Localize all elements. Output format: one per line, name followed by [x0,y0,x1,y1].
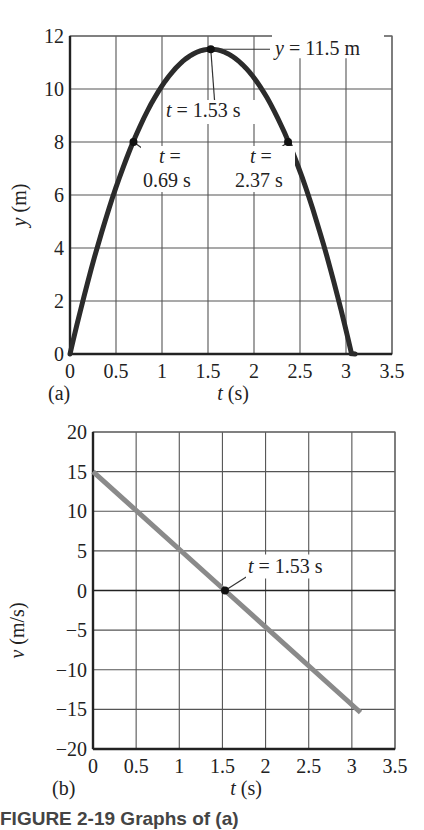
y-tick-label: 0 [54,343,64,365]
chart-b: 20151050−15−10−5−20 00.511.522.533.5 t =… [6,421,408,800]
zero-velocity-point [221,587,229,595]
y-tick-label: 0 [77,580,87,602]
chart-a: 024681012 00.511.522.533.5 y = 11.5 mt =… [8,25,405,405]
x-tick-label: 2 [249,360,259,382]
x-tick-label: 0.5 [104,360,129,382]
chart-b-y-axis-label: v (m/s) [6,602,29,658]
x-tick-label: 3 [347,755,357,777]
chart-a-panel-label: (a) [48,382,70,405]
x-tick-label: 3 [341,360,351,382]
x-tick-label: 0 [65,360,75,382]
y-tick-label: 8 [54,131,64,153]
figure-caption: FIGURE 2-19 Graphs of (a) [0,808,424,830]
x-tick-label: 1 [157,360,167,382]
x-tick-label: 0 [88,755,98,777]
chart-b-annotations: t = 1.53 s [221,555,340,595]
y-tick-label: 4 [54,237,64,259]
y-tick-label: 10 [44,78,64,100]
chart-a-y-axis-label: y (m) [8,184,31,229]
y-tick-label: 10 [67,500,87,522]
falling-point [284,138,292,146]
y-tick-label: 5 [77,540,87,562]
peak-height-label: y = 11.5 m [273,37,360,60]
x-tick-label: 1.5 [196,360,221,382]
falling-time-label-line1: t = [250,145,272,167]
x-tick-label: 3.5 [383,755,408,777]
chart-b-panel-label: (b) [52,777,75,800]
rising-time-label-line1: t = [159,145,181,167]
y-tick-label: −10 [56,659,87,681]
x-tick-label: 0.5 [124,755,149,777]
zero-velocity-time-label: t = 1.53 s [248,555,323,577]
x-tick-label: 1 [174,755,184,777]
y-tick-label: −20 [56,738,87,760]
y-tick-label: 20 [67,421,87,443]
peak-time-label: t = 1.53 s [166,99,241,121]
y-tick-label: 6 [54,184,64,206]
y-tick-label: 12 [44,25,64,47]
chart-b-y-tick-labels: 20151050−15−10−5−20 [56,421,87,760]
y-tick-label: 2 [54,290,64,312]
y-tick-label: −15 [56,698,87,720]
rising-point [129,138,137,146]
chart-a-y-tick-labels: 024681012 [44,25,64,365]
peak-point [207,45,215,53]
chart-a-x-axis-label: t (s) [217,382,249,405]
y-tick-label: 15 [67,461,87,483]
chart-b-x-axis-label: t (s) [230,777,262,800]
x-tick-label: 2.5 [288,360,313,382]
x-tick-label: 2.5 [296,755,321,777]
chart-a-x-tick-labels: 00.511.522.533.5 [65,360,405,382]
falling-time-label-value: 2.37 s [235,169,283,191]
x-tick-label: 1.5 [210,755,235,777]
y-tick-label: −5 [66,619,87,641]
x-tick-label: 3.5 [380,360,405,382]
chart-a-grid [70,36,392,354]
rising-time-label-value: 0.69 s [143,169,191,191]
chart-a-position-curve [70,49,355,354]
chart-b-x-tick-labels: 00.511.522.533.5 [88,755,408,777]
x-tick-label: 2 [261,755,271,777]
